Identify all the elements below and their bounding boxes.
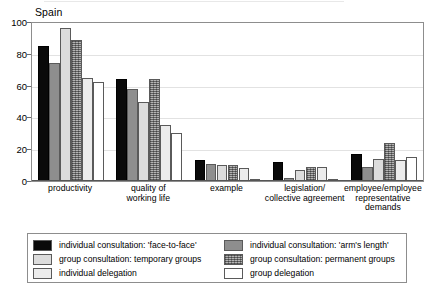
legend-label: group consultation: permanent groups <box>250 254 395 264</box>
legend-item[interactable]: individual consultation: 'face-to-face' <box>33 238 223 252</box>
legend-label: individual consultation: 'face-to-face' <box>59 240 197 250</box>
chart-title: Spain <box>35 6 62 18</box>
x-tick-label-line: demands <box>365 202 401 212</box>
x-tick-label: employee/employeerepresentativedemands <box>329 184 434 213</box>
legend: individual consultation: 'face-to-face'g… <box>27 233 407 283</box>
legend-label: individual delegation <box>59 268 137 278</box>
y-tick-label: 100 <box>11 17 27 28</box>
bar <box>362 167 373 181</box>
bar-groups <box>32 23 423 181</box>
x-axis-labels: productivityquality ofworking lifeexampl… <box>0 184 434 232</box>
legend-swatch-icon <box>224 254 243 265</box>
bar <box>206 164 217 181</box>
x-tick-label-line: legislation/ <box>284 183 325 193</box>
legend-label: group consultation: temporary groups <box>59 254 201 264</box>
y-tick-label: 60 <box>16 80 27 91</box>
bar-group <box>188 23 266 181</box>
x-tick-label-line: employee/employee <box>344 183 422 193</box>
bar <box>384 143 395 181</box>
legend-label: group delegation <box>250 268 314 278</box>
legend-item[interactable]: group delegation <box>224 266 406 280</box>
bar-group <box>345 23 423 181</box>
bar-group <box>32 23 110 181</box>
y-tick-label: 40 <box>16 112 27 123</box>
legend-column-left: individual consultation: 'face-to-face'g… <box>33 238 223 280</box>
bar <box>406 157 417 181</box>
x-tick-label-line: productivity <box>48 183 92 193</box>
bar <box>195 160 206 181</box>
chart-figure: Spain 020406080100 productivityquality o… <box>0 0 434 287</box>
bar <box>93 82 104 181</box>
bar <box>171 133 182 181</box>
bar <box>49 63 60 181</box>
y-tick-label: 80 <box>16 48 27 59</box>
bar-group <box>110 23 188 181</box>
bar <box>71 40 82 182</box>
x-tick-label-line: representative <box>355 193 410 203</box>
bar <box>306 167 317 181</box>
top-edge-artifact <box>44 1 344 2</box>
legend-swatch-icon <box>33 268 52 279</box>
legend-item[interactable]: group consultation: temporary groups <box>33 252 223 266</box>
legend-column-right: individual consultation: 'arm's length'g… <box>224 238 406 280</box>
legend-swatch-icon <box>224 268 243 279</box>
bar <box>317 167 328 181</box>
legend-swatch-icon <box>224 240 243 251</box>
bar <box>351 154 362 181</box>
bar <box>273 162 284 181</box>
bar <box>127 89 138 181</box>
x-tick-label-line: working life <box>127 193 170 203</box>
bar <box>149 79 160 181</box>
bar <box>373 159 384 181</box>
legend-item[interactable]: individual delegation <box>33 266 223 280</box>
bar <box>38 46 49 181</box>
legend-swatch-icon <box>33 254 52 265</box>
y-tick-label: 20 <box>16 144 27 155</box>
x-axis-line <box>32 180 423 181</box>
legend-label: individual consultation: 'arm's length' <box>250 240 389 250</box>
bar-group <box>267 23 345 181</box>
y-axis: 020406080100 <box>0 0 31 182</box>
bar <box>82 78 93 181</box>
bar <box>60 28 71 181</box>
legend-item[interactable]: individual consultation: 'arm's length' <box>224 238 406 252</box>
bar <box>217 165 228 181</box>
x-tick-label-line: quality of <box>131 183 166 193</box>
bar <box>116 79 127 181</box>
plot-area <box>31 22 424 182</box>
x-tick-label-line: example <box>210 183 243 193</box>
legend-item[interactable]: group consultation: permanent groups <box>224 252 406 266</box>
bar <box>160 125 171 181</box>
bar <box>138 102 149 182</box>
bar <box>395 160 406 181</box>
legend-swatch-icon <box>33 240 52 251</box>
bar <box>228 165 239 181</box>
